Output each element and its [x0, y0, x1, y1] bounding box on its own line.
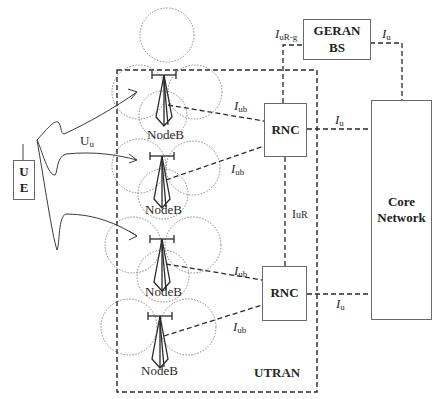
ue-label-line1: U	[19, 164, 28, 180]
iub-label: Iub	[231, 162, 244, 177]
nodeb-antenna-icon	[150, 152, 174, 208]
iu-geran-label: Iu	[382, 27, 391, 42]
cell-circle	[165, 217, 221, 273]
cell-circle	[160, 299, 216, 355]
core-label-line2: Network	[377, 210, 425, 226]
iub-label: Iub	[234, 99, 247, 114]
geran-label-line2: BS	[329, 40, 345, 56]
rnc-bottom-label: RNC	[270, 285, 298, 301]
iub-line	[168, 105, 264, 121]
nodeb-label: NodeB	[141, 364, 178, 377]
utran-label: UTRAN	[254, 366, 300, 379]
iur-g-label: IuR-g	[275, 27, 297, 42]
uu-label: Uu	[80, 134, 94, 149]
core-network-box: Core Network	[371, 100, 432, 320]
cell-circle	[105, 217, 161, 273]
nodeb-label: NodeB	[147, 128, 184, 141]
cell-circle	[101, 299, 157, 355]
ue-box: U E	[13, 160, 35, 200]
cell-circle	[112, 139, 166, 193]
iur-g-line	[283, 45, 303, 103]
rnc-bottom-box: RNC	[262, 266, 307, 321]
iub-label: Iub	[234, 264, 247, 279]
iub-label: Iub	[233, 320, 246, 335]
rnc-top-box: RNC	[264, 103, 307, 157]
nodeb-antenna-icon	[150, 235, 174, 291]
ue-label-line2: E	[20, 180, 29, 196]
iu-label: Iu	[335, 113, 344, 128]
nodeb-antenna-icon	[148, 312, 172, 368]
iub-line	[166, 264, 262, 280]
nodeb-antennas	[148, 71, 176, 368]
iur-label: IuR	[292, 208, 308, 220]
iub-line	[164, 305, 262, 336]
nodeb-antenna-icon	[152, 71, 176, 126]
iu-geran-line	[370, 43, 402, 100]
geran-label-line1: GERAN	[314, 23, 361, 39]
geran-bs-box: GERAN BS	[303, 19, 371, 60]
cell-circle	[140, 8, 194, 62]
nodeb-label: NodeB	[145, 203, 182, 216]
nodeb-label: NodeB	[145, 285, 182, 298]
rnc-top-label: RNC	[271, 122, 299, 138]
iu-label: Iu	[336, 297, 345, 312]
cell-circle	[166, 141, 220, 195]
core-label-line1: Core	[388, 194, 415, 210]
iub-line	[166, 146, 264, 180]
